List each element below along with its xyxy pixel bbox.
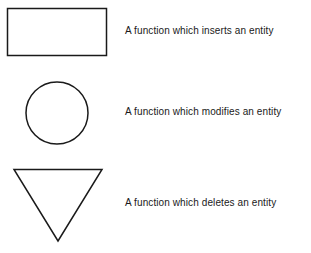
rectangle-insert-symbol <box>8 9 107 56</box>
delete-label: A function which deletes an entity <box>125 197 276 208</box>
insert-label: A function which inserts an entity <box>125 25 273 36</box>
circle-modify-symbol <box>26 82 88 144</box>
modify-label: A function which modifies an entity <box>125 106 281 117</box>
triangle-delete-symbol <box>14 170 102 242</box>
legend-shapes <box>0 0 311 253</box>
